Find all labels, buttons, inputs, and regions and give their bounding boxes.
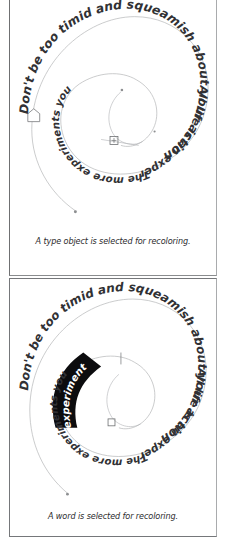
artwork-type-object: Don't be too timid and squeamish about y… (10, 0, 216, 275)
selected-word-text: experiments (10, 279, 89, 429)
center-anchor-point (108, 419, 115, 426)
page-root: Don't be too timid and squeamish about y… (0, 0, 235, 558)
bezier-handle (107, 374, 141, 426)
word-selection-highlight (53, 353, 101, 428)
anchor-dot-end (74, 210, 77, 213)
panel-word-selection: Don't be too timid and squeamish about y… (9, 278, 217, 537)
caption-word-selection: A word is selected for recoloring. (10, 511, 216, 521)
anchor-dot-inner (121, 89, 124, 92)
spiral-text-run-1: Don't be too timid and squeamish about y… (10, 279, 209, 446)
spiral-text-run-2: All life is an experiment. (10, 279, 208, 463)
artwork-word-selection: Don't be too timid and squeamish about y… (10, 279, 216, 536)
spiral-text-run-2: All life is an experiment. (10, 0, 210, 182)
anchor-dot-end (66, 493, 69, 496)
path-start-anchor (28, 109, 40, 122)
caption-type-object: A type object is selected for recoloring… (10, 236, 216, 246)
spiral-text-run-3: The more experiments you make the better… (10, 0, 152, 187)
spiral-path (30, 299, 206, 493)
bezier-handle (109, 92, 143, 144)
spiral-text-run-1: Don't be too timid and squeamish about y… (10, 0, 211, 164)
center-anchor-point (110, 136, 118, 144)
spiral-path (32, 17, 208, 211)
handle-bar (101, 139, 139, 145)
anchor-dot-mid (154, 130, 156, 132)
panel-type-object: Don't be too timid and squeamish about y… (9, 0, 217, 276)
spiral-text-run-3: The more experiments you make the better… (10, 279, 149, 469)
